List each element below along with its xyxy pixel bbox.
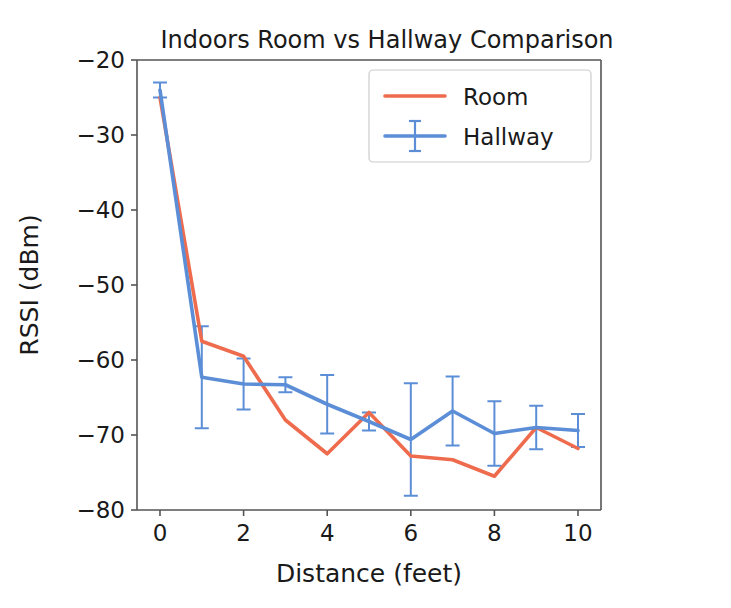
y-tick-label: −70 [76,422,125,448]
x-tick-label: 10 [563,520,592,546]
x-tick-label: 8 [487,520,502,546]
y-tick-label: −20 [76,47,125,73]
figure-canvas: 0246810 −20−30−40−50−60−70−80 Indoors Ro… [0,0,731,608]
chart-legend: RoomHallway [369,70,591,162]
y-axis-title: RSSI (dBm) [15,214,44,355]
y-tick-label: −40 [76,197,125,223]
x-tick-label: 0 [153,520,168,546]
x-tick-label: 2 [236,520,251,546]
x-axis-tick-labels: 0246810 [153,520,593,546]
x-axis-title: Distance (feet) [276,559,462,588]
y-tick-label: −80 [76,497,125,523]
y-tick-label: −50 [76,272,125,298]
x-tick-label: 4 [320,520,335,546]
x-axis-tickmarks [160,510,578,516]
page-margin-strip [0,590,731,608]
rssi-line-chart: 0246810 −20−30−40−50−60−70−80 Indoors Ro… [0,0,731,608]
y-axis-tick-labels: −20−30−40−50−60−70−80 [76,47,125,523]
x-tick-label: 6 [403,520,418,546]
chart-title: Indoors Room vs Hallway Comparison [160,26,613,54]
y-tick-label: −30 [76,122,125,148]
y-axis-tickmarks [131,60,137,510]
legend-label-room: Room [463,84,529,110]
legend-label-hallway: Hallway [463,124,554,150]
y-tick-label: −60 [76,347,125,373]
